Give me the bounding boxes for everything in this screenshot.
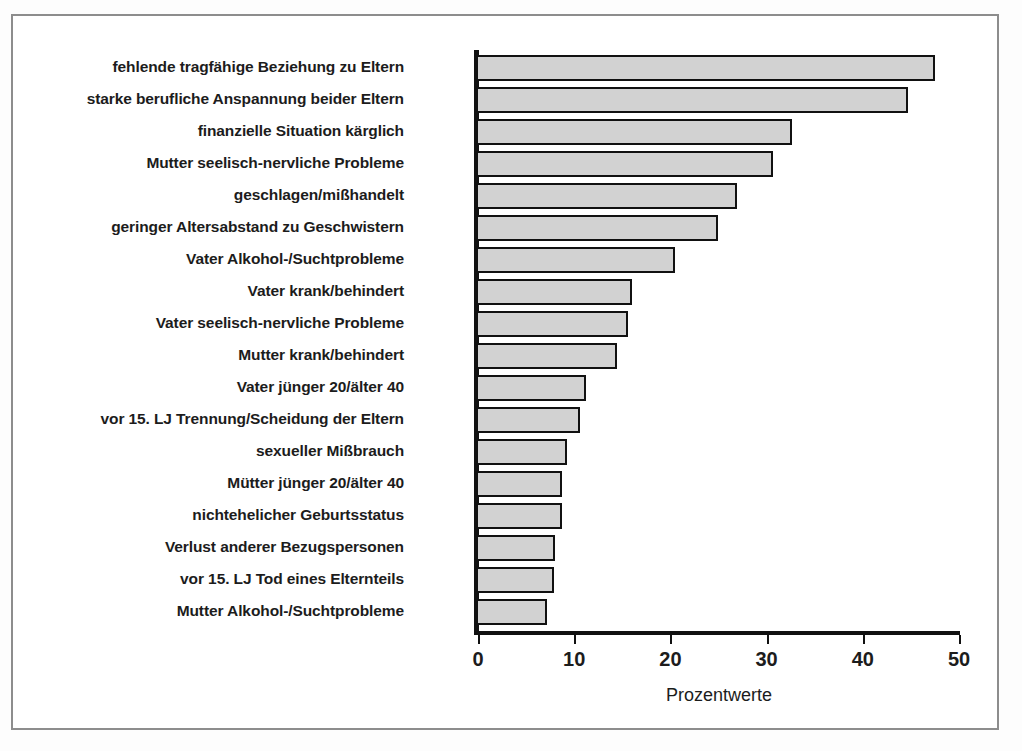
bar — [478, 535, 555, 561]
bar-row: Vater jünger 20/älter 40 — [30, 372, 970, 404]
bar-row: finanzielle Situation kärglich — [30, 116, 970, 148]
bar — [478, 151, 773, 177]
bar-category-label: Vater seelisch-nervliche Probleme — [156, 308, 404, 340]
bar-row: vor 15. LJ Trennung/Scheidung der Eltern — [30, 404, 970, 436]
bar-row: Mutter Alkohol-/Suchtprobleme — [30, 596, 970, 628]
x-axis-line — [478, 631, 960, 635]
bar-track — [478, 471, 970, 497]
x-axis-tick — [863, 635, 865, 644]
bar-category-label: Mutter krank/behindert — [238, 340, 404, 372]
bar-track — [478, 439, 970, 465]
bar-category-label: geringer Altersabstand zu Geschwistern — [111, 212, 404, 244]
bar-category-label: Mütter jünger 20/älter 40 — [227, 468, 404, 500]
bar-row: Mutter krank/behindert — [30, 340, 970, 372]
bar-row: Mutter seelisch-nervliche Probleme — [30, 148, 970, 180]
bar-row: starke berufliche Anspannung beider Elte… — [30, 84, 970, 116]
bar-category-label: vor 15. LJ Tod eines Elternteils — [180, 564, 404, 596]
bar-row: fehlende tragfähige Beziehung zu Eltern — [30, 52, 970, 84]
bar-track — [478, 375, 970, 401]
bar-category-label: sexueller Mißbrauch — [256, 436, 404, 468]
bar-category-label: finanzielle Situation kärglich — [198, 116, 404, 148]
x-axis-tick-label: 40 — [833, 648, 893, 671]
bar-track — [478, 87, 970, 113]
bar-track — [478, 343, 970, 369]
bar — [478, 471, 562, 497]
bar-track — [478, 279, 970, 305]
bar-row: Vater seelisch-nervliche Probleme — [30, 308, 970, 340]
bar-category-label: nichtehelicher Geburtsstatus — [192, 500, 404, 532]
bar-row: nichtehelicher Geburtsstatus — [30, 500, 970, 532]
bar-category-label: Mutter seelisch-nervliche Probleme — [146, 148, 404, 180]
bar-category-label: Verlust anderer Bezugspersonen — [165, 532, 404, 564]
bar — [478, 183, 737, 209]
bar-track — [478, 151, 970, 177]
bar-track — [478, 567, 970, 593]
bar-track — [478, 119, 970, 145]
bar-row: Verlust anderer Bezugspersonen — [30, 532, 970, 564]
bar-track — [478, 311, 970, 337]
bar-row: Vater krank/behindert — [30, 276, 970, 308]
x-axis-tick — [959, 635, 961, 644]
x-axis-tick — [767, 635, 769, 644]
bar-track — [478, 535, 970, 561]
bar — [478, 311, 628, 337]
bar-category-label: Vater krank/behindert — [248, 276, 404, 308]
x-axis-tick — [670, 635, 672, 644]
bar-row: geringer Altersabstand zu Geschwistern — [30, 212, 970, 244]
bar — [478, 119, 792, 145]
bar-category-label: starke berufliche Anspannung beider Elte… — [87, 84, 404, 116]
bar — [478, 375, 586, 401]
bar-category-label: Vater jünger 20/älter 40 — [237, 372, 404, 404]
bar-category-label: Mutter Alkohol-/Suchtprobleme — [177, 596, 404, 628]
x-axis-tick-label: 50 — [929, 648, 989, 671]
bar — [478, 599, 547, 625]
x-axis-tick-label: 10 — [544, 648, 604, 671]
bar-row: geschlagen/mißhandelt — [30, 180, 970, 212]
bar-rows-container: fehlende tragfähige Beziehung zu Elterns… — [30, 52, 970, 628]
chart-page: fehlende tragfähige Beziehung zu Elterns… — [0, 0, 1022, 751]
bar — [478, 247, 675, 273]
bar-track — [478, 407, 970, 433]
bar-track — [478, 55, 970, 81]
bar-category-label: Vater Alkohol-/Suchtprobleme — [186, 244, 404, 276]
bar-track — [478, 215, 970, 241]
x-axis-tick — [574, 635, 576, 644]
bar — [478, 343, 617, 369]
bar-track — [478, 183, 970, 209]
bar-category-label: geschlagen/mißhandelt — [234, 180, 404, 212]
bar-category-label: vor 15. LJ Trennung/Scheidung der Eltern — [101, 404, 404, 436]
bar — [478, 279, 632, 305]
bar-row: vor 15. LJ Tod eines Elternteils — [30, 564, 970, 596]
x-axis-title: Prozentwerte — [478, 685, 960, 706]
bar-row: sexueller Mißbrauch — [30, 436, 970, 468]
bar — [478, 407, 580, 433]
bar-row: Mütter jünger 20/älter 40 — [30, 468, 970, 500]
bar-row: Vater Alkohol-/Suchtprobleme — [30, 244, 970, 276]
bar — [478, 55, 935, 81]
x-axis-tick-label: 20 — [640, 648, 700, 671]
bar — [478, 503, 562, 529]
bar-track — [478, 247, 970, 273]
bar-category-label: fehlende tragfähige Beziehung zu Eltern — [113, 52, 405, 84]
bar-track — [478, 599, 970, 625]
bar-track — [478, 503, 970, 529]
bar — [478, 567, 554, 593]
bar — [478, 215, 718, 241]
chart-plot-area: fehlende tragfähige Beziehung zu Elterns… — [0, 0, 1022, 751]
bar — [478, 87, 908, 113]
bar — [478, 439, 567, 465]
x-axis-tick-label: 0 — [448, 648, 508, 671]
x-axis-tick-label: 30 — [737, 648, 797, 671]
x-axis-tick — [478, 635, 480, 644]
